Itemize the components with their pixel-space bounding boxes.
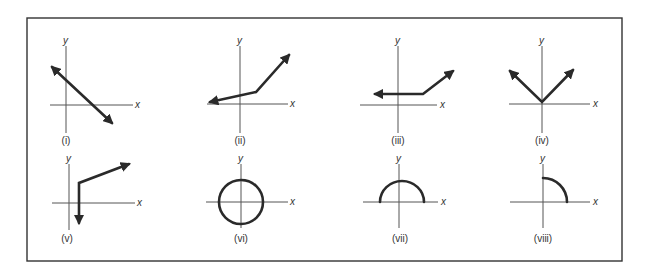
curve-polyline: [210, 55, 289, 102]
curve-polyline: [79, 164, 129, 223]
y-axis-label: y: [538, 35, 545, 46]
panel-v: x y (v): [52, 153, 143, 244]
x-axis-label: x: [592, 98, 599, 109]
figure-frame: [27, 18, 622, 261]
curve-polyline: [375, 71, 453, 94]
panel-vii: x y (vii): [363, 153, 447, 244]
panel-caption: (vi): [234, 233, 248, 244]
panel-caption: (iv): [535, 135, 549, 146]
x-axis-label: x: [289, 98, 296, 109]
x-axis-label: x: [289, 196, 296, 207]
panel-caption: (viii): [534, 233, 552, 244]
x-axis-label: x: [136, 197, 143, 208]
y-axis-label: y: [236, 35, 243, 46]
panel-viii: x y (viii): [510, 153, 599, 244]
panel-caption: (v): [61, 233, 73, 244]
x-axis-label: x: [592, 196, 599, 207]
curve-semicircle: [380, 181, 424, 202]
panel-vi: x y (vi): [206, 153, 296, 244]
panel-caption: (i): [62, 135, 71, 146]
y-axis-label: y: [539, 153, 546, 164]
curve-line: [52, 67, 112, 123]
panel-i: x y (i): [50, 35, 141, 146]
y-axis-label: y: [65, 153, 72, 164]
x-axis-label: x: [439, 99, 446, 110]
y-axis-label: y: [395, 153, 402, 164]
y-axis-label: y: [62, 35, 69, 46]
y-axis-label: y: [394, 35, 401, 46]
x-axis-label: x: [440, 196, 447, 207]
panel-caption: (ii): [234, 135, 245, 146]
panel-iv: x y (iv): [509, 35, 599, 146]
panel-ii: x y (ii): [207, 35, 296, 146]
curve-quarter-circle: [543, 178, 567, 202]
x-axis-label: x: [134, 99, 141, 110]
curves-figure: x y (i) x y (ii) x y (iii) x y (iv) x y: [0, 0, 654, 274]
panel-iii: x y (iii): [360, 35, 453, 146]
y-axis-label: y: [237, 153, 244, 164]
panel-caption: (iii): [391, 135, 404, 146]
panel-caption: (vii): [392, 233, 408, 244]
